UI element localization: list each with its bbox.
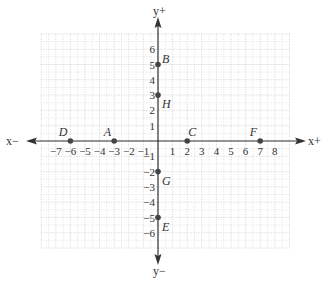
- point-label-g: G: [162, 174, 171, 188]
- x-tick-label: −6: [65, 145, 77, 157]
- point-label-d: D: [58, 125, 68, 139]
- point-c: [184, 138, 190, 144]
- x-tick-label: −5: [79, 145, 91, 157]
- point-label-f: F: [249, 125, 258, 139]
- y-tick-label: 2: [150, 104, 156, 116]
- point-label-c: C: [188, 125, 197, 139]
- y-tick-label: 6: [150, 43, 156, 55]
- coordinate-plane: −7−6−5−4−3−2−112345678−6−5−4−3−2−1123456…: [0, 0, 334, 289]
- y-tick-label: 5: [150, 59, 156, 71]
- point-label-e: E: [161, 220, 170, 234]
- x-tick-label: 4: [214, 145, 220, 157]
- x-positive-label: x+: [308, 134, 321, 148]
- y-tick-label: 4: [150, 74, 156, 86]
- point-e: [155, 215, 161, 221]
- point-label-a: A: [103, 125, 112, 139]
- x-tick-label: 5: [228, 145, 234, 157]
- x-tick-label: 3: [199, 145, 205, 157]
- y-tick-label: −2: [143, 166, 155, 178]
- point-d: [68, 138, 74, 144]
- point-a: [111, 138, 117, 144]
- y-tick-label: −5: [143, 212, 155, 224]
- y-tick-label: −6: [143, 227, 155, 239]
- data-points: ABCDEFGH: [58, 52, 263, 234]
- y-tick-label: −3: [143, 181, 155, 193]
- point-g: [155, 169, 161, 175]
- y-positive-label: y+: [153, 4, 166, 18]
- x-tick-label: −7: [50, 145, 62, 157]
- y-tick-label: 3: [150, 89, 156, 101]
- x-negative-label: x−: [6, 134, 19, 148]
- point-label-h: H: [161, 97, 172, 111]
- x-tick-label: 6: [243, 145, 249, 157]
- point-h: [155, 92, 161, 98]
- point-label-b: B: [162, 52, 170, 66]
- x-tick-label: −3: [108, 145, 120, 157]
- x-tick-label: 1: [170, 145, 176, 157]
- x-tick-label: −2: [123, 145, 135, 157]
- x-tick-label: 8: [272, 145, 278, 157]
- y-negative-label: y−: [153, 264, 166, 278]
- y-tick-label: −1: [143, 150, 155, 162]
- y-tick-label: 1: [150, 120, 156, 132]
- point-f: [257, 138, 263, 144]
- y-tick-label: −4: [143, 196, 155, 208]
- x-tick-label: 7: [257, 145, 263, 157]
- point-b: [155, 62, 161, 68]
- x-tick-label: −4: [94, 145, 106, 157]
- x-tick-label: 2: [184, 145, 190, 157]
